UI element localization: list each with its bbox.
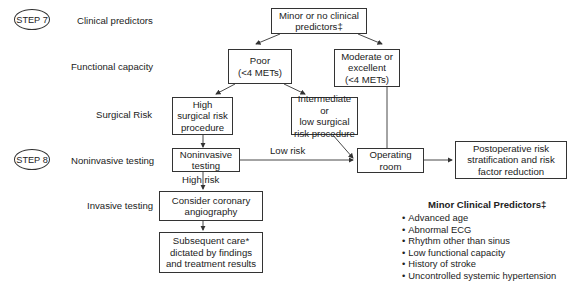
node-operating-line2: room xyxy=(380,161,402,173)
node-angiography-line2: angiography xyxy=(185,206,238,218)
legend-title: Minor Clinical Predictors‡ xyxy=(428,199,546,210)
step-7-label: STEP 7 xyxy=(16,15,48,25)
node-moderate-line1: Moderate or xyxy=(341,51,393,63)
node-high-line1: High xyxy=(193,99,213,111)
node-subsequent-line3: and treatment results xyxy=(166,258,256,270)
node-operating-room: Operating room xyxy=(357,148,424,173)
node-moderate-capacity: Moderate or excellent (<4 METs) xyxy=(334,49,400,87)
legend-item: Uncontrolled systemic hypertension xyxy=(402,270,556,282)
edge-label-high-risk: High risk xyxy=(182,174,219,185)
node-postop-line1: Postoperative risk xyxy=(473,143,549,155)
node-intermediate-surgical-risk: Intermediate or low surgical risk proced… xyxy=(291,97,358,135)
node-poor-line1: Poor xyxy=(250,55,270,67)
node-poor-line2: (<4 METs) xyxy=(238,67,282,79)
node-minor-line1: Minor or no clinical xyxy=(279,10,359,22)
node-coronary-angiography: Consider coronary angiography xyxy=(159,191,263,221)
row-label-invasive-testing: Invasive testing xyxy=(87,200,153,211)
step-8-label: STEP 8 xyxy=(16,155,48,165)
legend-item: History of stroke xyxy=(402,258,556,270)
node-moderate-line3: (<4 METs) xyxy=(345,74,389,86)
node-intermediate-line1: Intermediate or xyxy=(294,93,355,116)
node-postop-line3: factor reduction xyxy=(478,166,544,178)
node-postop-line2: stratification and risk xyxy=(467,154,554,166)
legend-item: Advanced age xyxy=(402,212,556,224)
node-intermediate-line2: low surgical xyxy=(299,116,349,128)
node-high-surgical-risk: High surgical risk procedure xyxy=(172,97,233,135)
row-label-noninvasive-testing: Noninvasive testing xyxy=(71,155,154,166)
legend-item: Rhythm other than sinus xyxy=(402,235,556,247)
row-label-functional-capacity: Functional capacity xyxy=(71,61,153,72)
legend-item: Low functional capacity xyxy=(402,247,556,259)
node-subsequent-line1: Subsequent care* xyxy=(173,235,249,247)
node-operating-line1: Operating xyxy=(369,149,411,161)
node-minor-line2: predictors‡ xyxy=(295,21,342,33)
node-noninvasive-line2: testing xyxy=(192,160,220,172)
row-label-surgical-risk: Surgical Risk xyxy=(96,109,152,120)
node-moderate-line2: excellent xyxy=(348,62,386,74)
row-label-clinical-predictors: Clinical predictors xyxy=(77,15,153,26)
node-intermediate-line3: risk procedure xyxy=(294,128,355,140)
edge-label-low-risk: Low risk xyxy=(270,145,305,156)
node-angiography-line1: Consider coronary xyxy=(172,195,250,207)
node-subsequent-care: Subsequent care* dictated by findings an… xyxy=(159,232,263,273)
node-high-line3: procedure xyxy=(181,122,224,134)
step-7-badge: STEP 7 xyxy=(14,9,50,30)
legend-list: Advanced age Abnormal ECG Rhythm other t… xyxy=(402,212,556,282)
node-high-line2: surgical risk xyxy=(177,110,228,122)
node-subsequent-line2: dictated by findings xyxy=(170,247,252,259)
node-poor-capacity: Poor (<4 METs) xyxy=(228,49,292,84)
node-noninvasive-line1: Noninvasive xyxy=(180,149,232,161)
node-postoperative-risk: Postoperative risk stratification and ri… xyxy=(455,141,567,179)
step-8-badge: STEP 8 xyxy=(14,149,50,170)
node-minor-clinical-predictors: Minor or no clinical predictors‡ xyxy=(271,8,367,34)
node-noninvasive-testing: Noninvasive testing xyxy=(172,148,240,172)
legend-item: Abnormal ECG xyxy=(402,224,556,236)
